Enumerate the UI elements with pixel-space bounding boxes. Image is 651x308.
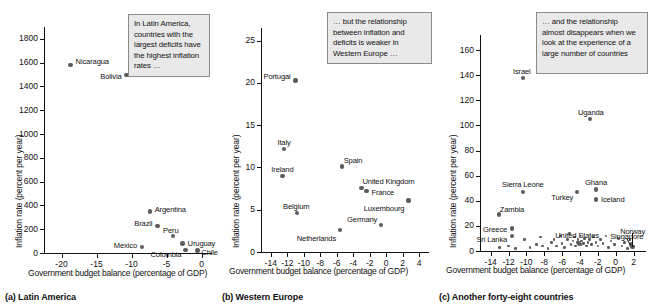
point-label: Israel bbox=[513, 67, 531, 76]
y-axis-tick bbox=[40, 253, 44, 254]
point-label: Turkey bbox=[551, 193, 573, 202]
y-axis-tick-label: 100 bbox=[444, 120, 474, 130]
y-axis-tick bbox=[40, 134, 44, 135]
scatter-point bbox=[626, 247, 629, 250]
scatter-point bbox=[597, 245, 600, 248]
y-axis-tick bbox=[476, 201, 480, 202]
scatter-point bbox=[547, 247, 550, 250]
point-label: Germany bbox=[347, 215, 377, 224]
y-axis-tick bbox=[40, 86, 44, 87]
point-label: United States bbox=[555, 231, 599, 240]
x-axis-tick bbox=[304, 253, 305, 257]
scatter-point bbox=[379, 223, 383, 227]
scatter-point bbox=[585, 245, 588, 248]
x-axis-tick bbox=[634, 252, 635, 256]
point-label: Ghana bbox=[585, 178, 607, 187]
scatter-point bbox=[183, 248, 187, 252]
scatter-point bbox=[521, 76, 525, 80]
y-axis-tick bbox=[476, 251, 480, 252]
scatter-point bbox=[68, 63, 72, 67]
x-axis-tick bbox=[509, 252, 510, 256]
annotation-callout-a: In Latin America, countries with the lar… bbox=[128, 14, 210, 77]
point-label: Greece bbox=[483, 225, 507, 234]
scatter-point bbox=[293, 78, 297, 82]
scatter-point bbox=[605, 235, 608, 238]
scatter-point bbox=[594, 197, 598, 201]
point-label: Uganda bbox=[578, 108, 604, 117]
scatter-point bbox=[599, 238, 602, 241]
scatter-point bbox=[594, 187, 598, 191]
point-label: Sri Lanka bbox=[476, 235, 507, 244]
y-axis-tick bbox=[40, 158, 44, 159]
scatter-point bbox=[623, 241, 626, 244]
scatter-point bbox=[541, 245, 544, 248]
scatter-point bbox=[359, 186, 363, 190]
scatter-point bbox=[561, 242, 564, 245]
y-axis-tick-label: 1400 bbox=[8, 81, 38, 91]
y-axis-tick bbox=[40, 39, 44, 40]
y-axis-tick bbox=[476, 226, 480, 227]
y-axis-tick-label: 25 bbox=[225, 35, 255, 45]
scatter-point bbox=[587, 241, 590, 244]
x-axis-tick bbox=[562, 252, 563, 256]
x-axis-tick bbox=[271, 253, 272, 257]
point-label: Colombia bbox=[151, 250, 182, 259]
y-axis-tick bbox=[257, 210, 261, 211]
scatter-point bbox=[602, 242, 605, 245]
label-leader-line bbox=[632, 233, 633, 247]
y-axis-tick-label: 0 bbox=[8, 248, 38, 258]
y-axis-tick bbox=[476, 50, 480, 51]
y-axis-tick-label: 15 bbox=[225, 120, 255, 130]
x-axis-tick bbox=[580, 252, 581, 256]
x-axis-tick bbox=[544, 252, 545, 256]
x-axis-line bbox=[44, 253, 212, 254]
scatter-point bbox=[535, 243, 538, 246]
point-label: Nicaragua bbox=[76, 57, 109, 66]
scatter-point bbox=[550, 241, 553, 244]
scatter-point bbox=[280, 174, 284, 178]
point-label: Netherlands bbox=[297, 234, 336, 243]
scatter-point bbox=[364, 189, 368, 193]
x-axis-tick bbox=[616, 252, 617, 256]
point-label: Bolivia bbox=[100, 72, 121, 81]
point-label: Sierra Leone bbox=[502, 180, 544, 189]
figure-three-scatter-panels: 020040060080010001200140016001800-20-15-… bbox=[0, 0, 651, 308]
scatter-point bbox=[498, 246, 501, 249]
scatter-point bbox=[570, 243, 573, 246]
point-label: Zambia bbox=[500, 205, 524, 214]
annotation-callout-b: … but the relationship between inflation… bbox=[327, 12, 432, 64]
point-label: Mexico bbox=[114, 241, 137, 250]
x-axis-tick bbox=[97, 254, 98, 258]
y-axis-tick-label: 120 bbox=[444, 95, 474, 105]
point-label: Spain bbox=[344, 156, 363, 165]
scatter-point bbox=[613, 243, 616, 246]
scatter-point bbox=[539, 236, 542, 239]
y-axis-tick bbox=[40, 110, 44, 111]
y-axis-tick bbox=[476, 176, 480, 177]
scatter-point bbox=[588, 117, 592, 121]
scatter-point bbox=[510, 234, 514, 238]
scatter-point bbox=[555, 245, 558, 248]
scatter-point bbox=[514, 247, 517, 250]
scatter-point bbox=[595, 241, 598, 244]
y-axis-tick bbox=[40, 205, 44, 206]
x-axis-title: Government budget balance (percentage of… bbox=[446, 265, 625, 275]
y-axis-tick bbox=[40, 182, 44, 183]
y-axis-tick-label: 1800 bbox=[8, 33, 38, 43]
y-axis-tick bbox=[257, 83, 261, 84]
y-axis-tick bbox=[476, 151, 480, 152]
point-label: France bbox=[371, 188, 394, 197]
y-axis-tick-label: 160 bbox=[444, 45, 474, 55]
x-axis-tick bbox=[491, 252, 492, 256]
y-axis-tick-label: 0 bbox=[225, 247, 255, 257]
annotation-callout-c: … and the relationship almost disappears… bbox=[536, 12, 648, 74]
scatter-point bbox=[295, 211, 299, 215]
point-label: Italy bbox=[277, 138, 290, 147]
panel-caption-b: (b) Western Europe bbox=[222, 292, 303, 302]
point-label: Peru bbox=[163, 226, 178, 235]
point-label: Chile bbox=[201, 248, 218, 257]
y-axis-tick bbox=[476, 75, 480, 76]
x-axis-tick bbox=[403, 253, 404, 257]
y-axis-line bbox=[44, 27, 45, 253]
x-axis-tick bbox=[526, 252, 527, 256]
